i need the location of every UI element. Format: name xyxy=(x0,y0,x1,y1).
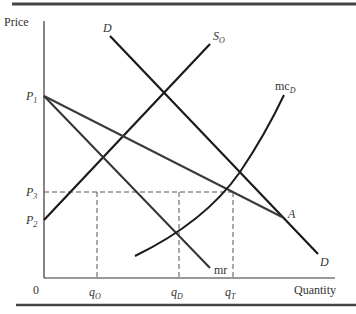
price-label-p2: P2 xyxy=(26,214,37,228)
y-axis-label: Price xyxy=(4,16,29,28)
supply-curve-so xyxy=(44,44,210,220)
supply-label-so: SO xyxy=(213,30,225,44)
quantity-label-qd: qD xyxy=(171,286,183,300)
demand-label-top: D xyxy=(103,22,112,34)
guide-lines xyxy=(44,192,233,278)
quantity-label-qt: qT xyxy=(225,286,235,300)
quantity-label-qo: qO xyxy=(89,286,101,300)
marginal-revenue-curve xyxy=(44,96,210,268)
price-label-p1: P1 xyxy=(26,90,37,104)
marginal-cost-curve xyxy=(135,95,284,256)
price-label-p3: P3 xyxy=(26,186,37,200)
kinked-demand-segment xyxy=(44,96,282,217)
marginal-cost-label: mcD xyxy=(275,80,295,94)
origin-label: 0 xyxy=(33,284,39,296)
x-axis-label: Quantity xyxy=(294,284,336,296)
demand-label-bottom: D xyxy=(320,256,329,268)
diagram-canvas xyxy=(0,0,356,314)
point-a-label: A xyxy=(288,208,295,220)
marginal-revenue-label: mr xyxy=(214,264,227,276)
